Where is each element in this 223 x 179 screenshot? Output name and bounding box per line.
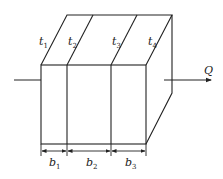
- heat-flow-label: Q: [204, 64, 213, 77]
- multilayer-wall-diagram: Q t1 t2 t3 t4 b1 b2 b3: [0, 0, 223, 179]
- temp-label-t2: t2: [68, 35, 77, 50]
- temp-label-t4: t4: [148, 35, 157, 50]
- temp-label-t3: t3: [112, 35, 121, 50]
- thickness-label-b1: b1: [49, 156, 61, 171]
- thickness-label-b2: b2: [86, 156, 98, 171]
- front-face: [41, 65, 146, 144]
- temp-label-t1: t1: [39, 35, 48, 50]
- dimension-lines: [41, 144, 146, 156]
- thickness-label-b3: b3: [125, 156, 137, 171]
